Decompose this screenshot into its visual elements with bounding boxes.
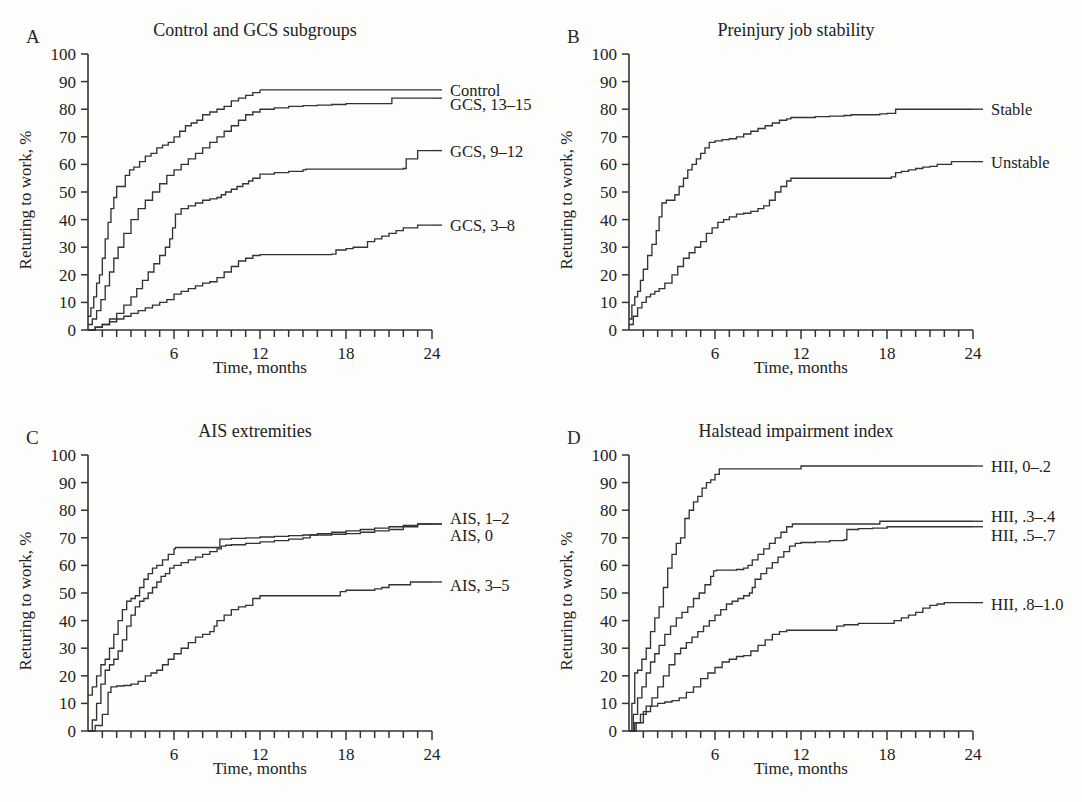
svg-text:80: 80 (600, 100, 617, 119)
svg-text:90: 90 (59, 474, 76, 493)
svg-text:40: 40 (59, 211, 76, 230)
svg-text:10: 10 (600, 694, 617, 713)
svg-text:24: 24 (424, 745, 442, 764)
svg-text:30: 30 (59, 238, 76, 257)
svg-text:50: 50 (600, 584, 617, 603)
svg-text:GCS, 13–15: GCS, 13–15 (450, 95, 532, 114)
svg-text:20: 20 (59, 667, 76, 686)
svg-text:40: 40 (600, 211, 617, 230)
svg-text:40: 40 (59, 612, 76, 631)
svg-text:70: 70 (59, 128, 76, 147)
svg-text:80: 80 (59, 501, 76, 520)
svg-text:20: 20 (600, 667, 617, 686)
svg-text:HII, 0–.2: HII, 0–.2 (991, 457, 1051, 476)
svg-text:70: 70 (59, 529, 76, 548)
svg-text:50: 50 (59, 183, 76, 202)
svg-text:12: 12 (252, 745, 269, 764)
panel-c-plot: 01020304050607080901006121824AIS, 1–2AIS… (0, 401, 541, 802)
svg-text:80: 80 (59, 100, 76, 119)
svg-text:10: 10 (59, 293, 76, 312)
svg-text:18: 18 (879, 344, 896, 363)
panel-c: C AIS extremities Returing to work, % Ti… (0, 401, 541, 802)
svg-text:6: 6 (170, 745, 179, 764)
svg-text:18: 18 (338, 745, 355, 764)
svg-text:80: 80 (600, 501, 617, 520)
svg-text:30: 30 (59, 639, 76, 658)
svg-text:6: 6 (170, 344, 179, 363)
svg-text:30: 30 (600, 639, 617, 658)
svg-text:GCS, 3–8: GCS, 3–8 (450, 216, 515, 235)
svg-text:Unstable: Unstable (991, 153, 1050, 172)
svg-text:HII, .3–.4: HII, .3–.4 (991, 507, 1055, 526)
svg-text:20: 20 (600, 266, 617, 285)
svg-text:90: 90 (59, 73, 76, 92)
svg-text:AIS, 0: AIS, 0 (450, 526, 493, 545)
svg-text:HII, .8–1.0: HII, .8–1.0 (991, 595, 1063, 614)
svg-text:100: 100 (592, 446, 618, 465)
svg-text:100: 100 (51, 446, 77, 465)
svg-text:90: 90 (600, 73, 617, 92)
svg-text:100: 100 (592, 45, 618, 64)
svg-text:0: 0 (68, 321, 77, 340)
svg-text:18: 18 (338, 344, 355, 363)
svg-text:0: 0 (68, 722, 77, 741)
svg-text:10: 10 (59, 694, 76, 713)
svg-text:6: 6 (711, 745, 720, 764)
svg-text:0: 0 (609, 722, 618, 741)
svg-text:GCS, 9–12: GCS, 9–12 (450, 142, 523, 161)
svg-text:70: 70 (600, 529, 617, 548)
svg-text:Stable: Stable (991, 100, 1032, 119)
svg-text:AIS, 3–5: AIS, 3–5 (450, 576, 510, 595)
svg-text:12: 12 (793, 344, 810, 363)
svg-text:HII, .5–.7: HII, .5–.7 (991, 526, 1055, 545)
svg-text:24: 24 (965, 344, 983, 363)
svg-text:60: 60 (600, 556, 617, 575)
figure-container: A Control and GCS subgroups Returing to … (0, 0, 1082, 802)
svg-text:60: 60 (59, 556, 76, 575)
panel-b-plot: 01020304050607080901006121824StableUnsta… (541, 0, 1082, 401)
svg-text:30: 30 (600, 238, 617, 257)
svg-text:10: 10 (600, 293, 617, 312)
svg-text:40: 40 (600, 612, 617, 631)
svg-text:100: 100 (51, 45, 77, 64)
svg-text:18: 18 (879, 745, 896, 764)
svg-text:12: 12 (252, 344, 269, 363)
svg-text:20: 20 (59, 266, 76, 285)
panel-a: A Control and GCS subgroups Returing to … (0, 0, 541, 401)
svg-text:12: 12 (793, 745, 810, 764)
svg-text:24: 24 (965, 745, 983, 764)
panel-d-plot: 01020304050607080901006121824HII, 0–.2HI… (541, 401, 1082, 802)
svg-text:50: 50 (59, 584, 76, 603)
svg-text:0: 0 (609, 321, 618, 340)
svg-text:6: 6 (711, 344, 720, 363)
svg-text:70: 70 (600, 128, 617, 147)
panel-b: B Preinjury job stability Returing to wo… (541, 0, 1082, 401)
svg-text:60: 60 (600, 155, 617, 174)
panel-d: D Halstead impairment index Returing to … (541, 401, 1082, 802)
svg-text:90: 90 (600, 474, 617, 493)
panel-a-plot: 01020304050607080901006121824ControlGCS,… (0, 0, 541, 401)
svg-text:60: 60 (59, 155, 76, 174)
svg-text:50: 50 (600, 183, 617, 202)
svg-text:24: 24 (424, 344, 442, 363)
